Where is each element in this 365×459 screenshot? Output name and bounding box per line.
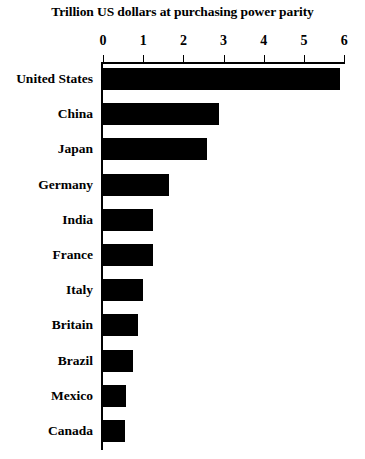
bar-row: India: [0, 209, 365, 231]
bar-category-label: Canada: [0, 420, 93, 442]
x-tick-mark: [224, 55, 225, 62]
bar-category-label: Germany: [0, 174, 93, 196]
bar-chart: Trillion US dollars at purchasing power …: [0, 0, 365, 459]
bar-canada: [103, 420, 125, 442]
bar-row: Britain: [0, 314, 365, 336]
bar-france: [103, 244, 153, 266]
x-tick-mark: [264, 55, 265, 62]
bars-layer: United StatesChinaJapanGermanyIndiaFranc…: [0, 0, 365, 459]
bar-row: Germany: [0, 174, 365, 196]
bar-category-label: China: [0, 103, 93, 125]
bar-row: China: [0, 103, 365, 125]
x-tick-mark: [304, 55, 305, 62]
bar-row: Japan: [0, 138, 365, 160]
bar-row: Brazil: [0, 350, 365, 372]
bar-category-label: Japan: [0, 138, 93, 160]
bar-category-label: Mexico: [0, 385, 93, 407]
x-tick-mark: [103, 55, 104, 62]
bar-brazil: [103, 350, 133, 372]
bar-row: United States: [0, 68, 365, 90]
bar-germany: [103, 174, 169, 196]
bar-category-label: France: [0, 244, 93, 266]
bar-category-label: India: [0, 209, 93, 231]
bar-italy: [103, 279, 143, 301]
bar-japan: [103, 138, 207, 160]
bar-china: [103, 103, 219, 125]
x-tick-mark: [143, 55, 144, 62]
x-tick-mark: [183, 55, 184, 62]
bar-mexico: [103, 385, 126, 407]
bar-category-label: Britain: [0, 314, 93, 336]
bar-india: [103, 209, 153, 231]
bar-category-label: Italy: [0, 279, 93, 301]
bar-row: Italy: [0, 279, 365, 301]
bar-row: Mexico: [0, 385, 365, 407]
bar-united-states: [103, 68, 340, 90]
bar-category-label: Brazil: [0, 350, 93, 372]
x-tick-mark: [344, 55, 345, 62]
bar-britain: [103, 314, 138, 336]
bar-row: Canada: [0, 420, 365, 442]
bar-row: France: [0, 244, 365, 266]
bar-category-label: United States: [0, 68, 93, 90]
